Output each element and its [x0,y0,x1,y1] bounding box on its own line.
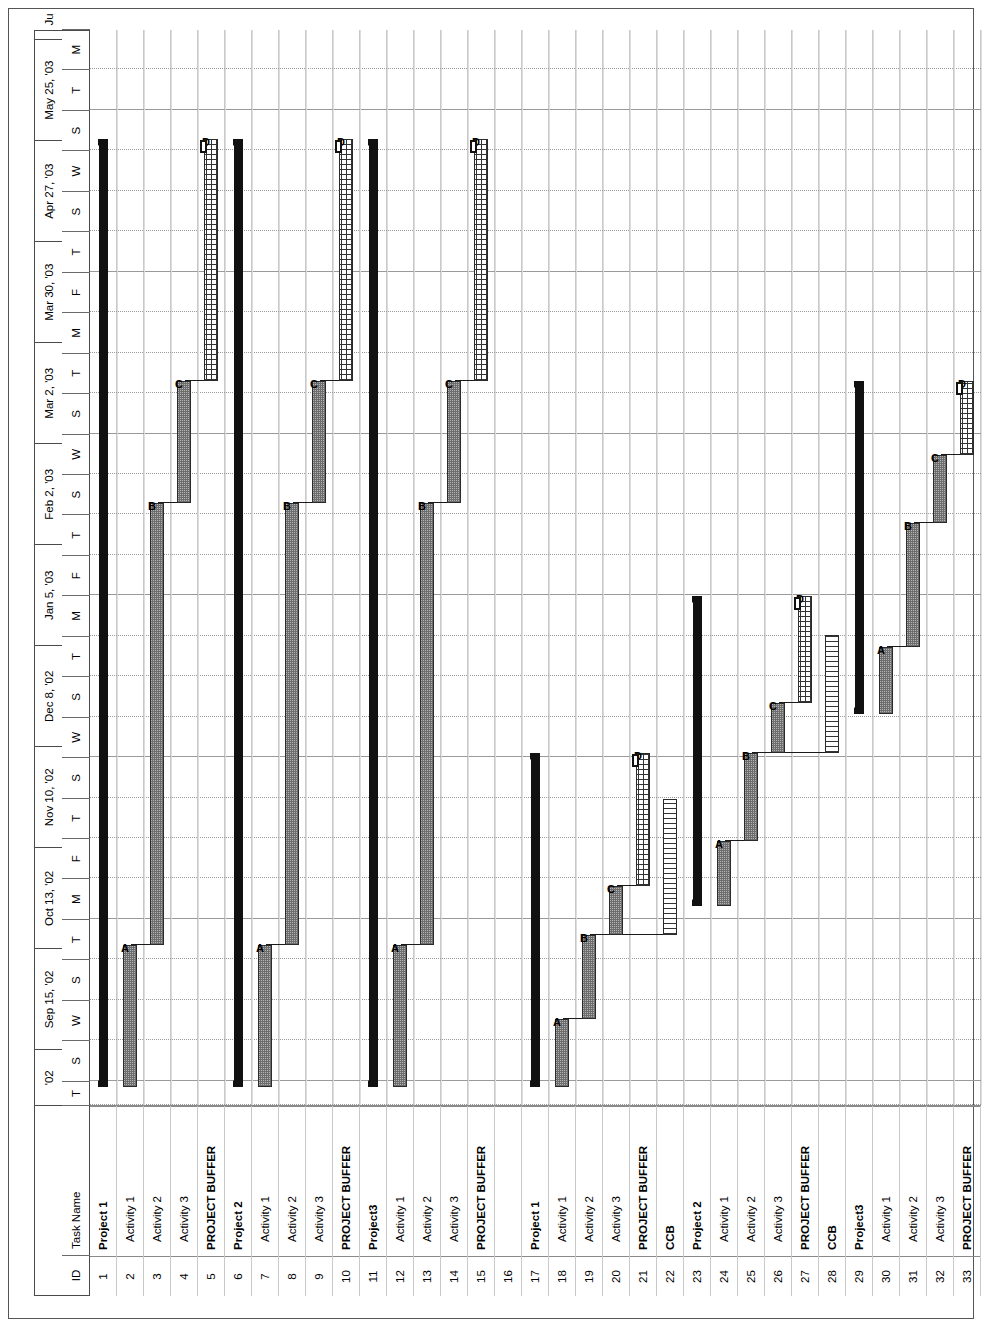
timeline-header: '02Sep 15, '02Oct 13, '02Nov 10, '02Dec … [34,30,90,1296]
activity-bar[interactable] [420,503,434,944]
timeline-day-label: S [62,1040,90,1080]
row-task-name-cell: PROJECT BUFFER [792,1106,818,1256]
row-task-name-cell [495,1106,521,1256]
project-buffer-bar[interactable] [798,596,812,703]
buffer-marker-icon [335,140,342,153]
activity-bar[interactable] [312,381,326,503]
row-separator [387,30,388,1105]
activity-bar[interactable] [285,503,299,944]
row-task-name-cell: Activity 2 [576,1106,602,1256]
row-task-name-cell: Activity 3 [927,1106,953,1256]
summary-bar[interactable] [369,139,378,1087]
row-id-cell: 11 [360,1256,386,1296]
row-task-name-cell: Project 2 [225,1106,251,1256]
gantt-chart: '02Sep 15, '02Oct 13, '02Nov 10, '02Dec … [34,30,954,1296]
summary-bar[interactable] [855,381,864,714]
timeline-period-label: Nov 10, '02 [35,746,62,847]
project-buffer-bar[interactable] [339,139,353,382]
activity-bar[interactable] [717,841,731,906]
summary-bar[interactable] [531,753,540,1087]
row-task-name-cell: Project3 [360,1106,386,1256]
row-id-cell: 13 [414,1256,440,1296]
row-separator [198,30,199,1105]
timeline-day-label: T [62,353,90,393]
project-buffer-bar[interactable] [204,139,218,382]
summary-bar[interactable] [234,139,243,1087]
timeline-gridline [90,554,981,555]
row-id-cell: 4 [171,1256,197,1296]
project-buffer-bar[interactable] [474,139,488,382]
row-id-cell: 12 [387,1256,413,1296]
bar-label: B [742,750,750,762]
bar-label: B [904,520,912,532]
activity-bar[interactable] [582,935,596,1020]
timeline-day-label: T [62,798,90,838]
feeding-buffer-bar[interactable] [825,635,839,752]
row-separator [900,30,901,1105]
timeline-day-label: W [62,717,90,757]
row-task-name-cell: Activity 3 [171,1106,197,1256]
row-id-cell: 17 [522,1256,548,1296]
row-id-cell: 32 [927,1256,953,1296]
row-separator [657,30,658,1105]
buffer-marker-icon [200,140,207,153]
row-separator [711,30,712,1105]
timeline-gridline [90,149,981,150]
timeline-day-label: F [62,838,90,878]
timeline-gridline [90,109,981,110]
timeline-day-label: S [62,959,90,999]
row-task-name-cell: PROJECT BUFFER [198,1106,224,1256]
row-separator [549,30,550,1105]
activity-bar[interactable] [123,945,137,1087]
row-task-name-cell: Activity 1 [711,1106,737,1256]
timeline-gridline [90,1104,981,1105]
row-id-cell: 22 [657,1256,683,1296]
activity-bar[interactable] [177,381,191,503]
activity-bar[interactable] [150,503,164,944]
row-task-name-cell: PROJECT BUFFER [468,1106,494,1256]
activity-bar[interactable] [258,945,272,1087]
row-id-cell: 8 [279,1256,305,1296]
dependency-link-line [590,934,671,935]
column-header-task-name: Task Name [62,1105,90,1255]
row-separator [765,30,766,1105]
summary-bar[interactable] [99,139,108,1087]
row-separator [927,30,928,1105]
bar-label: C [445,378,453,390]
bar-label: A [877,644,885,656]
row-separator [225,30,226,1105]
row-separator [117,30,118,1105]
row-task-name-cell: Project 1 [90,1106,116,1256]
timeline-day-label: T [62,69,90,109]
summary-bar[interactable] [693,596,702,906]
row-task-name-cell: Activity 3 [306,1106,332,1256]
project-buffer-bar[interactable] [636,753,650,886]
activity-bar[interactable] [393,945,407,1087]
activity-bar[interactable] [744,753,758,841]
activity-bar[interactable] [447,381,461,503]
timeline-day-label: S [62,757,90,797]
activity-bar[interactable] [879,647,893,715]
row-separator [306,30,307,1105]
timeline-gridline [90,716,981,717]
bar-label: C [175,378,183,390]
activity-bar[interactable] [906,523,920,647]
timeline-day-label: W [62,434,90,474]
timeline-gridline [90,271,981,272]
timeline-day-label: M [62,312,90,352]
row-id-cell: 1 [90,1256,116,1296]
row-id-cell: 19 [576,1256,602,1296]
feeding-buffer-bar[interactable] [663,799,677,934]
timeline-gridline [90,68,981,69]
row-id-cell: 6 [225,1256,251,1296]
activity-bar[interactable] [555,1019,569,1087]
row-separator [441,30,442,1105]
bar-label: B [418,500,426,512]
timeline-gridline [90,675,981,676]
row-task-name-cell: Project3 [846,1106,872,1256]
timeline-day-label: S [62,474,90,514]
row-separator [846,30,847,1105]
timeline-gridline [90,433,981,434]
timeline-day-label: F [62,555,90,595]
activity-bar[interactable] [933,455,947,523]
